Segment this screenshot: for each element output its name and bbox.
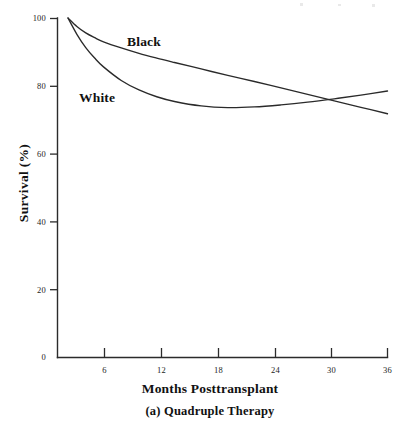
y-tick-label-80: 80 bbox=[20, 81, 46, 91]
x-tick-label-6: 6 bbox=[93, 365, 117, 375]
x-tick-label-36: 36 bbox=[376, 365, 400, 375]
y-axis-title: Survival (%) bbox=[16, 113, 32, 253]
series-line-black bbox=[68, 18, 388, 114]
x-tick-label-30: 30 bbox=[320, 365, 344, 375]
y-tick-label-0: 0 bbox=[20, 352, 46, 362]
y-tick-label-100: 100 bbox=[20, 13, 46, 23]
series-line-white bbox=[68, 18, 388, 108]
x-tick-label-12: 12 bbox=[150, 365, 174, 375]
x-tick-label-24: 24 bbox=[264, 365, 288, 375]
series-label-white: White bbox=[79, 90, 115, 106]
series-label-black: Black bbox=[127, 34, 161, 50]
figure-panel: 100 80 60 40 20 0 6 12 18 24 30 36 Black… bbox=[0, 0, 420, 434]
x-tick-label-18: 18 bbox=[207, 365, 231, 375]
x-axis-title: Months Posttransplant bbox=[0, 381, 420, 397]
y-tick-label-20: 20 bbox=[20, 285, 46, 295]
figure-caption: (a) Quadruple Therapy bbox=[0, 404, 420, 419]
